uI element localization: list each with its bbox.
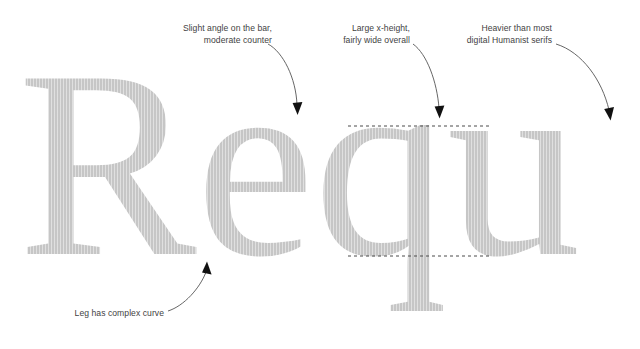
annotation-leg-curve-line-1: Leg has complex curve [58, 307, 164, 319]
annotation-bar-angle: Slight angle on the bar, moderate counte… [160, 22, 272, 47]
annotation-x-height: Large x-height, fairly wide overall [310, 22, 410, 47]
annotation-x-height-line-2: fairly wide overall [310, 34, 410, 46]
arrow-weight [556, 44, 614, 121]
arrow-bar-angle [268, 44, 302, 115]
annotation-weight: Heavier than most digital Humanist serif… [438, 22, 552, 47]
specimen-canvas: Requ [0, 0, 640, 349]
annotation-leg-curve: Leg has complex curve [58, 307, 164, 319]
annotation-bar-angle-line-1: Slight angle on the bar, [160, 22, 272, 34]
annotation-overlay [0, 0, 640, 349]
arrow-leg-curve [168, 262, 212, 312]
arrow-x-height [413, 44, 444, 119]
annotation-weight-line-1: Heavier than most [438, 22, 552, 34]
annotation-bar-angle-line-2: moderate counter [160, 34, 272, 46]
annotation-weight-line-2: digital Humanist serifs [438, 34, 552, 46]
annotation-x-height-line-1: Large x-height, [310, 22, 410, 34]
